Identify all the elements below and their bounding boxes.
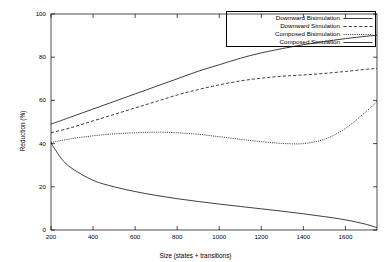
legend-entry: Composed Simulation: [279, 39, 373, 47]
reduction-vs-size-line-chart: 020406080100 200400600800100012001400160…: [0, 0, 391, 262]
x-tick-label: 200: [46, 234, 56, 240]
y-tick-label: 80: [20, 54, 46, 60]
x-tick-label: 1400: [296, 234, 310, 240]
x-tick-label: 400: [88, 234, 98, 240]
y-tick-label: 100: [20, 11, 46, 17]
data-series-layer: [51, 35, 377, 228]
legend-line-sample: [343, 23, 373, 30]
legend-entry-label: Composed Simulation: [279, 39, 340, 45]
y-axis-title: Reduction (%): [19, 111, 26, 152]
series-line: [51, 143, 377, 228]
series-line: [51, 35, 377, 124]
legend-entry-label: Composed Bisimulation: [275, 31, 340, 37]
series-line: [51, 101, 377, 143]
legend-entry: Downward Simulation: [280, 22, 373, 30]
x-tick-label: 1200: [254, 234, 268, 240]
series-line: [51, 68, 377, 132]
x-tick-label: 1000: [212, 234, 226, 240]
legend-entry-label: Downward Bisimulation: [276, 15, 340, 21]
y-tick-label: 20: [20, 184, 46, 190]
x-tick-label: 800: [172, 234, 182, 240]
legend-entry-label: Downward Simulation: [280, 23, 340, 29]
legend-entry: Composed Bisimulation: [275, 30, 373, 38]
x-axis-title: Size (states + transitions): [0, 252, 391, 259]
y-tick-label: 0: [20, 227, 46, 233]
legend-entry: Downward Bisimulation: [276, 14, 373, 22]
legend: Downward BisimulationDownward Simulation…: [226, 11, 376, 47]
x-tick-label: 1600: [339, 234, 353, 240]
legend-line-sample: [343, 39, 373, 46]
legend-line-sample: [343, 15, 373, 22]
y-tick-label: 60: [20, 97, 46, 103]
legend-line-sample: [343, 31, 373, 38]
x-tick-label: 600: [130, 234, 140, 240]
